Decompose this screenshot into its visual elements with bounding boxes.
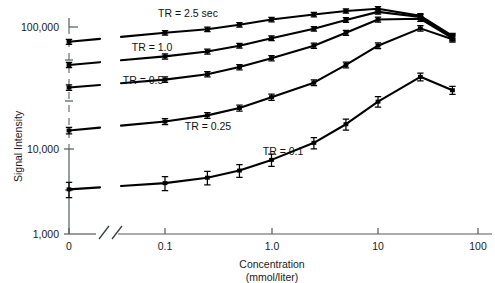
data-point-marker [269, 36, 274, 40]
data-point-marker [67, 40, 72, 44]
data-point-marker [237, 106, 242, 110]
series-annotation-1: TR = 1.0 [132, 41, 173, 53]
data-point-marker [237, 44, 242, 48]
data-point-marker [269, 18, 274, 22]
series-annotation-4: TR = 0.1 [263, 145, 304, 157]
y-axis-title: Signal Intensity [12, 110, 24, 182]
series-annotation-0: TR = 2.5 sec [158, 7, 218, 19]
data-point-marker [269, 56, 274, 60]
x-tick-label-0: 0 [66, 240, 72, 252]
data-point-marker [311, 44, 316, 48]
data-point-marker [344, 31, 349, 35]
data-point-marker [344, 122, 349, 126]
x-tick-label-100: 100 [469, 240, 487, 252]
data-point-marker [269, 95, 274, 99]
data-point-marker [311, 141, 316, 145]
data-point-marker [163, 181, 168, 185]
x-tick-label-10: 10 [372, 240, 384, 252]
chart-background [0, 0, 495, 283]
data-point-marker [376, 10, 381, 14]
data-point-marker [163, 120, 168, 124]
data-point-marker [418, 75, 423, 79]
data-point-marker [67, 86, 72, 90]
data-point-marker [163, 78, 168, 82]
series-annotation-2: TR = 0.5 [123, 74, 164, 86]
data-point-marker [376, 18, 381, 22]
y-tick-label-100000: 100,000 [21, 21, 59, 33]
data-point-marker [311, 27, 316, 31]
data-point-marker [205, 113, 210, 117]
data-point-marker [67, 187, 72, 191]
data-point-marker [311, 13, 316, 17]
data-point-marker [344, 18, 349, 22]
y-tick-label-10000: 10,000 [27, 143, 59, 155]
data-point-marker [344, 63, 349, 67]
data-point-marker [205, 27, 210, 31]
data-point-marker [418, 26, 423, 30]
data-point-marker [205, 72, 210, 76]
data-point-marker [163, 54, 168, 58]
data-point-marker [205, 176, 210, 180]
data-point-marker [376, 100, 381, 104]
data-point-marker [205, 49, 210, 53]
data-point-marker [418, 17, 423, 21]
x-tick-label-1.0: 1.0 [265, 240, 280, 252]
data-point-marker [269, 158, 274, 162]
data-point-marker [67, 63, 72, 67]
data-point-marker [237, 65, 242, 69]
data-point-marker [376, 44, 381, 48]
data-point-marker [450, 88, 455, 92]
data-point-marker [67, 129, 72, 133]
x-axis-units: (mmol/liter) [246, 271, 299, 283]
x-axis-title: Concentration [239, 258, 305, 270]
data-point-marker [237, 23, 242, 27]
x-tick-label-0.1: 0.1 [158, 240, 173, 252]
series-annotation-3: TR = 0.25 [185, 120, 232, 132]
data-point-marker [450, 37, 455, 41]
signal-intensity-chart: 100,000 10,000 1,000 Signal Intensity 0 … [0, 0, 495, 283]
data-point-marker [311, 81, 316, 85]
y-tick-label-1000: 1,000 [33, 228, 59, 240]
data-point-marker [344, 9, 349, 13]
data-point-marker [237, 169, 242, 173]
data-point-marker [163, 31, 168, 35]
